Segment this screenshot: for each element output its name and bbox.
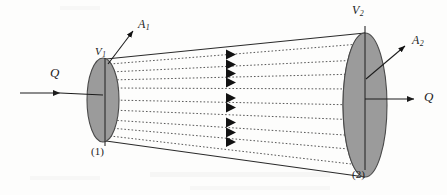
area-1-label: A1 [138,18,150,32]
section-1-label: (1) [91,146,104,157]
section-2-label: (2) [352,169,365,180]
streamline-arrowhead-group [226,50,236,148]
stream-tube-diagram [0,0,447,195]
velocity-1-subscript: 1 [102,51,106,59]
inlet-flow-label: Q [50,66,59,79]
velocity-2-label: V2 [352,4,364,18]
area-2-subscript: 2 [419,39,423,48]
inlet-disk-section-1 [87,58,119,142]
area-2-label: A2 [412,34,424,48]
area-1-subscript: 1 [145,23,149,32]
velocity-1-label: V1 [95,46,106,59]
velocity-2-subscript: 2 [359,9,363,18]
outlet-flow-label: Q [424,90,433,103]
figure-canvas: Q Q V1 V2 A1 A2 (1) (2) [0,0,447,195]
